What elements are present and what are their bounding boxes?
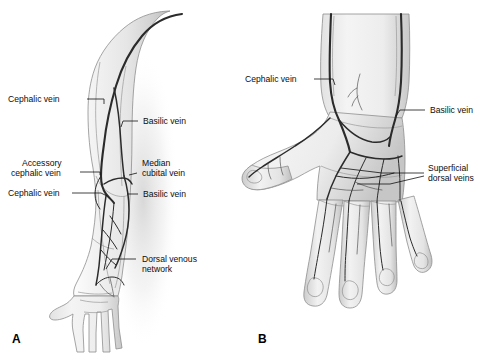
label-a-dorsal-line1: Dorsal venous	[142, 254, 197, 264]
panel-b-caption: B	[258, 332, 267, 346]
label-a-cephalic-lower: Cephalic vein	[8, 188, 60, 198]
label-a-cephalic-upper: Cephalic vein	[8, 94, 60, 104]
label-a-basilic-upper: Basilic vein	[143, 116, 186, 126]
label-b-basilic: Basilic vein	[430, 105, 473, 115]
label-a-accessory-line2: cephalic vein	[11, 168, 61, 178]
label-a-median-line1: Median	[142, 158, 170, 168]
panel-a-caption: A	[12, 332, 21, 346]
figure-canvas: Cephalic vein Basilic vein Accessory cep…	[0, 0, 480, 354]
label-a-basilic-lower: Basilic vein	[143, 189, 186, 199]
label-b-superficial-line1: Superficial	[428, 163, 468, 173]
label-a-median-line2: cubital vein	[142, 168, 185, 178]
anatomical-figure: Cephalic vein Basilic vein Accessory cep…	[0, 0, 480, 354]
label-a-dorsal-line2: network	[142, 264, 173, 274]
label-a-accessory-line1: Accessory	[22, 158, 62, 168]
label-b-cephalic: Cephalic vein	[245, 74, 297, 84]
label-b-superficial-line2: dorsal veins	[428, 173, 474, 183]
